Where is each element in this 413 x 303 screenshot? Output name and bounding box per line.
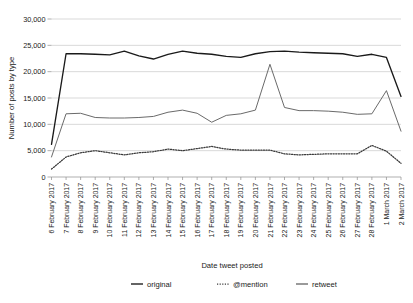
- x-axis-tick-label: 14 February 2017: [165, 183, 173, 238]
- x-axis-tick-label: 21 February 2017: [267, 183, 275, 238]
- x-axis-tick-label: 13 February 2017: [150, 183, 158, 238]
- x-axis-tick-label: 10 February 2017: [106, 183, 114, 238]
- x-axis-tick-label: 2 March 2017: [398, 183, 405, 225]
- series-line-retweet: [52, 64, 402, 157]
- x-axis-tick-label: 20 February 2017: [252, 183, 260, 238]
- x-axis-title: Date tweet posted: [201, 261, 262, 270]
- x-axis-tick-label: 27 February 2017: [354, 183, 362, 238]
- y-axis-tick-label: 30,000: [23, 15, 45, 24]
- y-axis-tick-label: 0: [41, 173, 45, 182]
- x-axis-tick-label: 16 February 2017: [194, 183, 202, 238]
- y-axis-tick-label: 10,000: [23, 120, 45, 129]
- y-axis-tick-label: 20,000: [23, 67, 45, 76]
- x-axis-tick-label: 8 February 2017: [77, 183, 85, 234]
- data-series: [52, 51, 402, 169]
- line-chart: 05,00010,00015,00020,00025,00030,000 6 F…: [0, 0, 413, 303]
- x-axis-tick-label: 9 February 2017: [92, 183, 100, 234]
- y-axis-tick-label: 15,000: [23, 94, 45, 103]
- x-axis-tick-label: 15 February 2017: [179, 183, 187, 238]
- legend: original@mentionretweet: [131, 280, 338, 289]
- legend-label-retweet: retweet: [312, 280, 338, 289]
- x-axis-tick-label: 24 February 2017: [310, 183, 318, 238]
- x-axis-tick-labels: 6 February 20177 February 20178 February…: [48, 177, 405, 237]
- y-axis-tick-label: 5,000: [27, 146, 45, 155]
- legend-label-original: original: [147, 280, 172, 289]
- x-axis-tick-label: 17 February 2017: [208, 183, 216, 238]
- x-axis-tick-label: 12 February 2017: [135, 183, 143, 238]
- legend-label-at-mention: @mention: [233, 280, 268, 289]
- x-axis-tick-label: 19 February 2017: [237, 183, 245, 238]
- chart-container: 05,00010,00015,00020,00025,00030,000 6 F…: [0, 0, 413, 303]
- x-axis-tick-label: 22 February 2017: [281, 183, 289, 238]
- x-axis-tick-label: 26 February 2017: [339, 183, 347, 238]
- y-axis-tick-labels: 05,00010,00015,00020,00025,00030,000: [23, 15, 45, 182]
- x-axis-tick-label: 7 February 2017: [63, 183, 71, 234]
- series-line-at-mention: [52, 145, 402, 169]
- y-axis-title: Number of posts by type: [7, 57, 16, 139]
- x-axis-tick-label: 11 February 2017: [121, 183, 129, 237]
- gridlines: [48, 19, 402, 177]
- x-axis-tick-label: 23 February 2017: [296, 183, 304, 238]
- x-axis-tick-label: 28 February 2017: [368, 183, 376, 238]
- x-axis-tick-label: 6 February 2017: [48, 183, 56, 234]
- y-axis-tick-label: 25,000: [23, 41, 45, 50]
- x-axis-tick-label: 18 February 2017: [223, 183, 231, 238]
- x-axis-tick-label: 25 February 2017: [325, 183, 333, 238]
- x-axis-tick-label: 1 March 2017: [383, 183, 390, 225]
